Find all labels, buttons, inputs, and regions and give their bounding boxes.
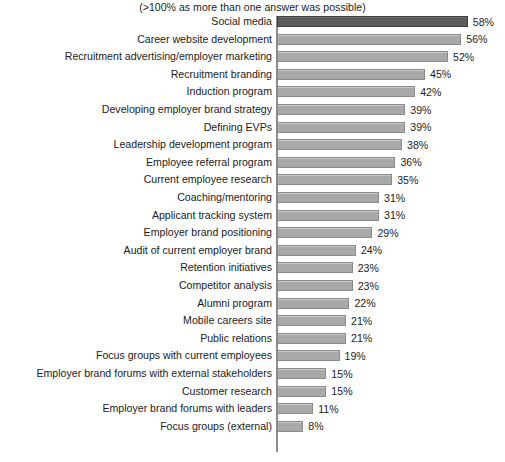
bar-row: Retention initiatives23% bbox=[0, 262, 505, 280]
bar bbox=[277, 51, 448, 62]
bar bbox=[277, 315, 346, 326]
bar-category-label: Employer brand forums with leaders bbox=[102, 403, 272, 414]
bar-category-label: Defining EVPs bbox=[204, 122, 272, 133]
bar-chart: (>100% as more than one answer was possi… bbox=[0, 0, 505, 462]
bar-row: Employer brand forums with external stak… bbox=[0, 368, 505, 386]
bar-category-label: Developing employer brand strategy bbox=[102, 104, 272, 115]
bar-value-label: 23% bbox=[358, 262, 379, 274]
chart-title: (>100% as more than one answer was possi… bbox=[0, 1, 505, 13]
bar-category-label: Induction program bbox=[187, 86, 272, 97]
bar-value-label: 31% bbox=[384, 192, 405, 204]
bar bbox=[277, 280, 353, 291]
bar-row: Applicant tracking system31% bbox=[0, 210, 505, 228]
bar-category-label: Mobile careers site bbox=[183, 315, 272, 326]
bar-row: Mobile careers site21% bbox=[0, 315, 505, 333]
bar bbox=[277, 139, 402, 150]
bar-row: Customer research15% bbox=[0, 386, 505, 404]
bar-value-label: 21% bbox=[351, 332, 372, 344]
bar-row: Leadership development program38% bbox=[0, 139, 505, 157]
bar-row: Coaching/mentoring31% bbox=[0, 192, 505, 210]
bar-category-label: Current employee research bbox=[144, 174, 272, 185]
bar bbox=[277, 245, 356, 256]
bar bbox=[277, 350, 340, 361]
bar bbox=[277, 421, 303, 432]
bar-category-label: Retention initiatives bbox=[180, 262, 272, 273]
bar bbox=[277, 262, 353, 273]
bar-value-label: 38% bbox=[407, 139, 428, 151]
bar-row: Developing employer brand strategy39% bbox=[0, 104, 505, 122]
bar bbox=[277, 403, 313, 414]
bar bbox=[277, 386, 326, 397]
bar-value-label: 31% bbox=[384, 209, 405, 221]
bar-value-label: 21% bbox=[351, 315, 372, 327]
bar-value-label: 52% bbox=[453, 51, 474, 63]
bar-category-label: Career website development bbox=[137, 34, 272, 45]
bar-row: Audit of current employer brand24% bbox=[0, 245, 505, 263]
bar-value-label: 15% bbox=[331, 385, 352, 397]
bar-row: Focus groups with current employees19% bbox=[0, 350, 505, 368]
bar-category-label: Leadership development program bbox=[114, 139, 272, 150]
bar bbox=[277, 157, 395, 168]
plot-area: Social media58%Career website developmen… bbox=[0, 16, 505, 456]
bar-value-label: 35% bbox=[397, 174, 418, 186]
bar-row: Alumni program22% bbox=[0, 298, 505, 316]
bar bbox=[277, 16, 468, 27]
bar bbox=[277, 210, 379, 221]
bar-category-label: Applicant tracking system bbox=[152, 210, 272, 221]
bar-category-label: Competitor analysis bbox=[179, 280, 272, 291]
bar-row: Competitor analysis23% bbox=[0, 280, 505, 298]
bar bbox=[277, 104, 405, 115]
bar bbox=[277, 34, 461, 45]
bar-value-label: 39% bbox=[410, 121, 431, 133]
bar-value-label: 58% bbox=[473, 16, 494, 28]
bar-row: Employee referral program36% bbox=[0, 157, 505, 175]
bar-value-label: 56% bbox=[466, 33, 487, 45]
bar bbox=[277, 368, 326, 379]
bar-category-label: Focus groups (external) bbox=[160, 421, 272, 432]
bar-value-label: 19% bbox=[345, 350, 366, 362]
bar bbox=[277, 86, 415, 97]
bar-value-label: 23% bbox=[358, 280, 379, 292]
bar-value-label: 11% bbox=[318, 403, 338, 415]
bar-category-label: Recruitment branding bbox=[171, 69, 272, 80]
bar-row: Employer brand forums with leaders11% bbox=[0, 403, 505, 421]
bar bbox=[277, 192, 379, 203]
bar-value-label: 42% bbox=[420, 86, 441, 98]
bar-category-label: Alumni program bbox=[197, 298, 272, 309]
bar-value-label: 36% bbox=[400, 156, 421, 168]
bar-row: Focus groups (external)8% bbox=[0, 421, 505, 439]
bar-category-label: Coaching/mentoring bbox=[177, 192, 272, 203]
bar bbox=[277, 333, 346, 344]
bar bbox=[277, 298, 349, 309]
bar-category-label: Social media bbox=[211, 16, 272, 27]
bar bbox=[277, 122, 405, 133]
bar-value-label: 45% bbox=[430, 68, 451, 80]
bar-category-label: Audit of current employer brand bbox=[124, 245, 272, 256]
bar-row: Social media58% bbox=[0, 16, 505, 34]
bar-row: Recruitment branding45% bbox=[0, 69, 505, 87]
bar bbox=[277, 174, 392, 185]
bar-value-label: 24% bbox=[361, 244, 382, 256]
bar-row: Induction program42% bbox=[0, 86, 505, 104]
bar-value-label: 29% bbox=[377, 227, 398, 239]
bar-category-label: Employee referral program bbox=[146, 157, 272, 168]
bar-row: Employer brand positioning29% bbox=[0, 227, 505, 245]
bar-row: Public relations21% bbox=[0, 333, 505, 351]
bar-category-label: Public relations bbox=[200, 333, 272, 344]
bar-category-label: Employer brand forums with external stak… bbox=[36, 368, 272, 379]
bar-value-label: 39% bbox=[410, 104, 431, 116]
bar-category-label: Recruitment advertising/employer marketi… bbox=[65, 51, 272, 62]
bar-value-label: 8% bbox=[308, 420, 323, 432]
bar bbox=[277, 227, 372, 238]
bar bbox=[277, 69, 425, 80]
bar-category-label: Customer research bbox=[182, 386, 272, 397]
bar-value-label: 15% bbox=[331, 368, 352, 380]
bar-value-label: 22% bbox=[354, 297, 375, 309]
bar-row: Defining EVPs39% bbox=[0, 122, 505, 140]
bar-row: Recruitment advertising/employer marketi… bbox=[0, 51, 505, 69]
bar-row: Career website development56% bbox=[0, 34, 505, 52]
bar-category-label: Employer brand positioning bbox=[144, 227, 272, 238]
bar-category-label: Focus groups with current employees bbox=[96, 350, 272, 361]
bar-row: Current employee research35% bbox=[0, 174, 505, 192]
